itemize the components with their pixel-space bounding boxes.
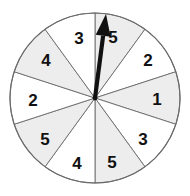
spinner-pivot xyxy=(93,96,98,101)
spinner-wheel: 5213545243 xyxy=(0,0,190,196)
spinner-figure: 5213545243 xyxy=(0,0,190,196)
